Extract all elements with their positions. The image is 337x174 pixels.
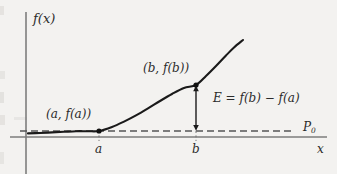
y-axis-label: f(x)	[33, 12, 55, 25]
marker-point-b	[193, 82, 198, 87]
tick-label-b: b	[192, 143, 200, 155]
point-b-label: (b, f(b))	[143, 62, 189, 74]
figure-panel: f(x) x P0 a b (a, f(a)) (b, f(b)) E = f(…	[0, 0, 337, 174]
function-plot	[0, 0, 337, 174]
baseline-label-subscript: 0	[311, 126, 316, 135]
error-equation-label: E = f(b) − f(a)	[213, 92, 300, 104]
error-arrow	[193, 86, 199, 131]
baseline-label: P0	[303, 121, 316, 134]
tick-label-a: a	[95, 143, 102, 155]
marker-point-a	[96, 128, 101, 133]
x-axis-label: x	[317, 143, 324, 155]
point-a-label: (a, f(a))	[46, 108, 91, 120]
baseline-label-text: P	[303, 120, 311, 134]
